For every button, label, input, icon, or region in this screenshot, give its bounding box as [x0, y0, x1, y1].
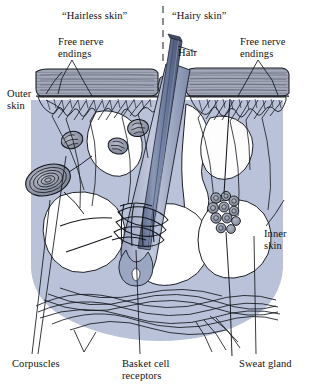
label-sweat-gland: Sweat gland: [239, 358, 292, 370]
label-free-nerve-endings-right: Free nerve endings: [240, 36, 286, 60]
label-corpuscles: Corpuscles: [12, 358, 60, 370]
label-outer-skin: Outer skin: [7, 88, 31, 112]
label-basket-cell-receptors: Basket cell receptors: [122, 358, 169, 382]
region-label-hairless-skin: “Hairless skin”: [62, 10, 127, 22]
region-label-hairy-skin: “Hairy skin”: [172, 10, 227, 22]
skin-cross-section-figure: “Hairless skin” “Hairy skin” Free nerve …: [0, 0, 314, 389]
label-hair: Hair: [178, 47, 197, 59]
label-free-nerve-endings-left: Free nerve endings: [58, 36, 104, 60]
label-inner-skin: Inner skin: [264, 228, 287, 252]
